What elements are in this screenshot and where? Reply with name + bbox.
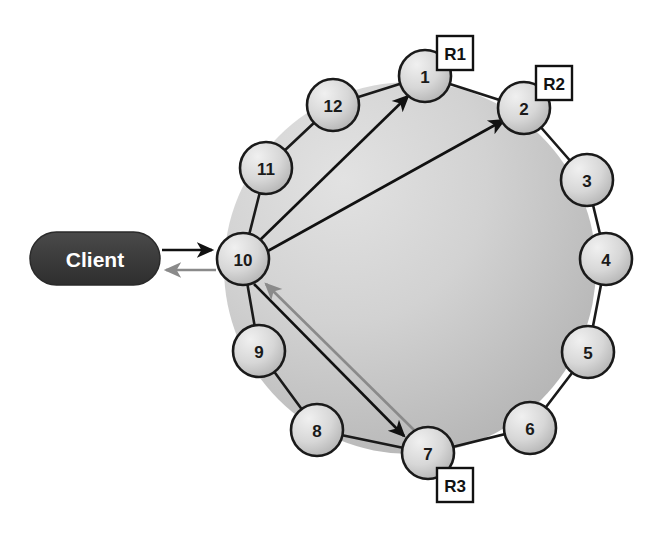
client-shape bbox=[30, 232, 160, 285]
replica-box-r2[interactable]: R2 bbox=[536, 66, 572, 100]
node-circle bbox=[217, 233, 269, 285]
replica-box-shape bbox=[536, 66, 572, 100]
node-4[interactable]: 4 bbox=[580, 233, 632, 285]
node-5[interactable]: 5 bbox=[562, 326, 614, 378]
node-circle bbox=[562, 326, 614, 378]
node-circle bbox=[561, 154, 613, 206]
node-6[interactable]: 6 bbox=[504, 402, 556, 454]
replica-box-shape bbox=[437, 36, 473, 70]
node-circle bbox=[291, 404, 343, 456]
node-circle bbox=[233, 325, 285, 377]
ring-diagram-canvas: Client 1 2 3 4 5 bbox=[0, 0, 666, 533]
node-circle bbox=[240, 142, 292, 194]
node-circle bbox=[307, 79, 359, 131]
replica-box-r3[interactable]: R3 bbox=[437, 468, 473, 502]
node-8[interactable]: 8 bbox=[291, 404, 343, 456]
node-12[interactable]: 12 bbox=[307, 79, 359, 131]
client-node[interactable]: Client bbox=[30, 232, 160, 285]
node-9[interactable]: 9 bbox=[233, 325, 285, 377]
node-10[interactable]: 10 bbox=[217, 233, 269, 285]
node-circle bbox=[504, 402, 556, 454]
node-circle bbox=[580, 233, 632, 285]
replica-box-r1[interactable]: R1 bbox=[437, 36, 473, 70]
replica-box-shape bbox=[437, 468, 473, 502]
ring-disc bbox=[224, 82, 596, 454]
node-11[interactable]: 11 bbox=[240, 142, 292, 194]
ring-diagram: Client 1 2 3 4 5 bbox=[0, 0, 666, 533]
node-3[interactable]: 3 bbox=[561, 154, 613, 206]
